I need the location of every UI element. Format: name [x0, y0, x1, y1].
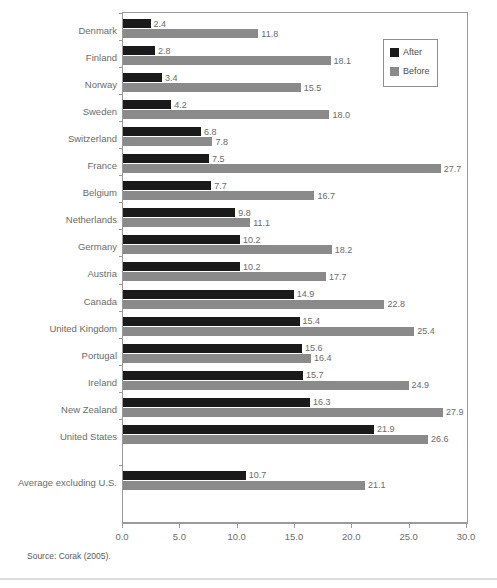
bar-value-label: 10.2 [243, 235, 261, 244]
bar-before: 18.2 [123, 245, 332, 254]
y-axis-tick [119, 94, 123, 95]
bar-value-label: 18.2 [335, 245, 353, 254]
bar-value-label: 22.8 [387, 300, 405, 309]
legend-swatch-before-icon [390, 67, 399, 76]
category-label: Finland [5, 52, 117, 63]
category-label: Germany [5, 241, 117, 252]
source-note: Source: Corak (2005). [27, 551, 111, 561]
bar-before: 27.9 [123, 408, 443, 417]
bar-value-label: 2.4 [154, 19, 167, 28]
bar-value-label: 27.7 [444, 164, 462, 173]
bar-before: 22.8 [123, 300, 384, 309]
bar-after: 16.3 [123, 398, 310, 407]
bar-value-label: 4.2 [174, 100, 187, 109]
bar-before: 26.6 [123, 435, 428, 444]
bar-after: 15.7 [123, 371, 303, 380]
x-axis-tick-label: 20.0 [342, 531, 361, 542]
bar-after: 4.2 [123, 100, 171, 109]
chart-row: Germany10.218.2 [123, 233, 467, 260]
bar-value-label: 17.7 [329, 272, 347, 281]
category-label: Average excluding U.S. [5, 477, 117, 488]
legend-item-before: Before [390, 67, 430, 76]
y-axis-tick [119, 67, 123, 68]
bar-before: 11.1 [123, 218, 250, 227]
bar-before: 21.1 [123, 481, 365, 490]
bar-value-label: 18.0 [332, 110, 350, 119]
bar-after: 7.5 [123, 154, 209, 163]
bar-value-label: 7.8 [215, 137, 228, 146]
bar-before: 16.7 [123, 191, 314, 200]
bar-value-label: 15.6 [305, 344, 323, 353]
bar-after: 9.8 [123, 208, 235, 217]
bottom-rule [0, 578, 497, 580]
bar-value-label: 21.9 [377, 425, 395, 434]
x-axis-tick [466, 523, 467, 528]
bar-value-label: 2.8 [158, 46, 171, 55]
bar-after: 21.9 [123, 425, 374, 434]
legend-label-before: Before [403, 67, 430, 76]
category-label: United Kingdom [5, 323, 117, 334]
bar-value-label: 18.1 [334, 56, 352, 65]
chart-row: Belgium7.716.7 [123, 179, 467, 206]
bar-value-label: 10.7 [249, 471, 267, 480]
chart-row: France7.527.7 [123, 152, 467, 179]
bar-value-label: 6.8 [204, 127, 217, 136]
category-label: Switzerland [5, 133, 117, 144]
chart-row: Netherlands9.811.1 [123, 206, 467, 233]
x-axis-tick [409, 523, 410, 528]
category-label: Ireland [5, 377, 117, 388]
chart-row: Switzerland6.87.8 [123, 125, 467, 152]
y-axis-tick [119, 419, 123, 420]
chart-row: Average excluding U.S.10.721.1 [123, 469, 467, 496]
bar-value-label: 25.4 [417, 327, 435, 336]
bar-value-label: 7.7 [214, 181, 227, 190]
bar-after: 15.4 [123, 317, 300, 326]
x-axis-tick-label: 10.0 [227, 531, 246, 542]
bar-before: 27.7 [123, 164, 441, 173]
category-label: Denmark [5, 25, 117, 36]
x-axis-tick [294, 523, 295, 528]
y-axis-tick [119, 311, 123, 312]
bar-before: 18.0 [123, 110, 329, 119]
legend-swatch-after-icon [390, 48, 399, 57]
y-axis-tick [119, 148, 123, 149]
bar-after: 14.9 [123, 290, 294, 299]
y-axis-tick [119, 40, 123, 41]
x-axis-tick-label: 5.0 [173, 531, 186, 542]
bar-value-label: 15.5 [304, 83, 322, 92]
bar-value-label: 11.8 [261, 29, 278, 38]
bar-value-label: 9.8 [238, 208, 251, 217]
x-axis-tick [237, 523, 238, 528]
x-axis-tick [351, 523, 352, 528]
category-label: France [5, 160, 117, 171]
bar-value-label: 14.9 [297, 290, 315, 299]
y-axis-tick [119, 256, 123, 257]
bar-value-label: 16.4 [314, 354, 332, 363]
category-label: Norway [5, 79, 117, 90]
bar-before: 16.4 [123, 354, 311, 363]
x-axis-line [122, 523, 468, 524]
category-label: United States [5, 431, 117, 442]
legend-label-after: After [403, 48, 422, 57]
bar-before: 25.4 [123, 327, 414, 336]
chart-figure: Denmark2.411.8Finland2.818.1Norway3.415.… [0, 0, 497, 588]
y-axis-tick [119, 392, 123, 393]
y-axis-tick [119, 13, 123, 14]
bar-value-label: 7.5 [212, 154, 225, 163]
category-label: Portugal [5, 350, 117, 361]
chart-row: Portugal15.616.4 [123, 342, 467, 369]
category-label: Sweden [5, 106, 117, 117]
x-axis-tick-label: 30.0 [457, 531, 476, 542]
bar-after: 10.2 [123, 235, 240, 244]
bar-value-label: 26.6 [431, 435, 449, 444]
x-axis-tick-label: 0.0 [115, 531, 128, 542]
chart-row: United Kingdom15.425.4 [123, 315, 467, 342]
bar-after: 15.6 [123, 344, 302, 353]
bar-after: 10.7 [123, 471, 246, 480]
y-axis-tick [119, 465, 123, 466]
y-axis-tick [119, 121, 123, 122]
category-label: New Zealand [5, 404, 117, 415]
x-axis-tick-label: 15.0 [285, 531, 304, 542]
bar-after: 2.4 [123, 19, 151, 28]
bar-value-label: 10.2 [243, 262, 261, 271]
